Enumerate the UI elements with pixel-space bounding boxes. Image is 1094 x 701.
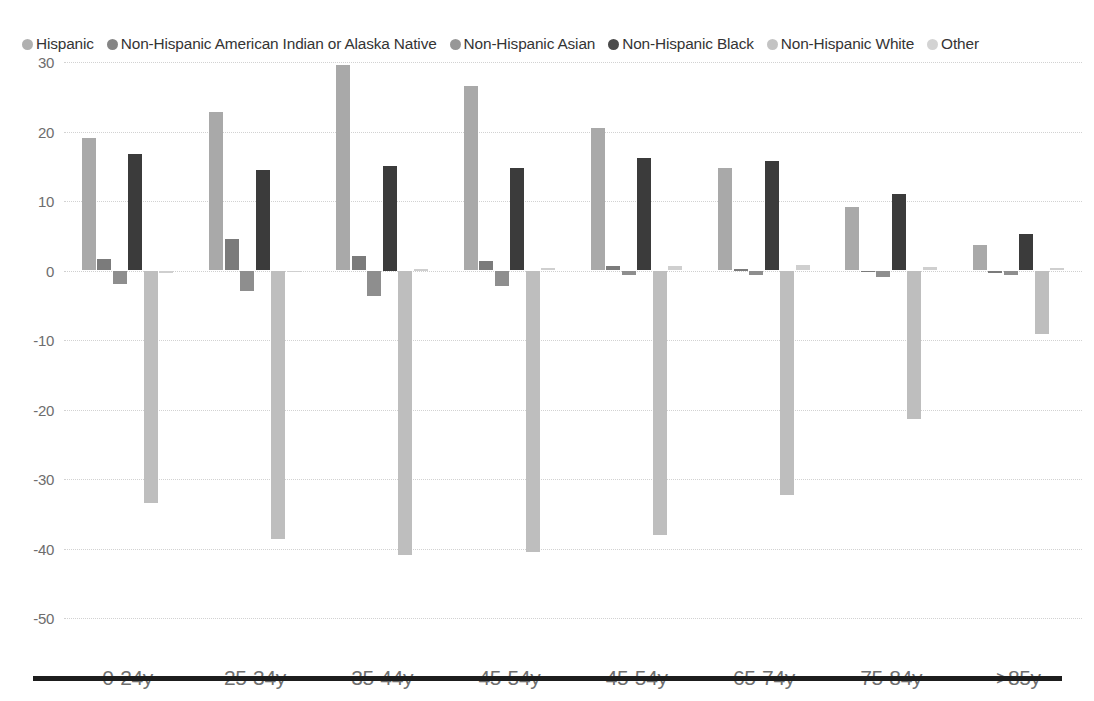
legend-dot-icon (927, 39, 938, 50)
bar-group->85y (0, 57, 1094, 657)
legend-label: Hispanic (36, 36, 94, 51)
bar[interactable] (988, 271, 1002, 273)
legend-label: Non-Hispanic Black (622, 36, 754, 51)
legend-item-2[interactable]: Non-Hispanic Asian (450, 36, 596, 51)
chart-legend: HispanicNon-Hispanic American Indian or … (22, 33, 1072, 55)
legend-label: Non-Hispanic White (781, 36, 914, 51)
bar[interactable] (1050, 268, 1064, 270)
x-axis-labels: 0-24y25-34y35-44y45-54y45-54y65-74y75-84… (0, 666, 1094, 701)
legend-dot-icon (107, 39, 118, 50)
plot-area: 3020100-10-20-30-40-50 0-24y25-34y35-44y… (0, 57, 1094, 657)
legend-item-1[interactable]: Non-Hispanic American Indian or Alaska N… (107, 36, 437, 51)
bottom-divider (33, 676, 1062, 681)
legend-dot-icon (767, 39, 778, 50)
legend-label: Other (941, 36, 979, 51)
legend-dot-icon (450, 39, 461, 50)
legend-dot-icon (22, 39, 33, 50)
bar[interactable] (1019, 234, 1033, 270)
legend-item-5[interactable]: Other (927, 36, 979, 51)
bars-layer (0, 57, 1094, 657)
legend-label: Non-Hispanic Asian (464, 36, 596, 51)
legend-item-3[interactable]: Non-Hispanic Black (608, 36, 754, 51)
legend-item-0[interactable]: Hispanic (22, 36, 94, 51)
chart-page: HispanicNon-Hispanic American Indian or … (0, 0, 1094, 701)
bar[interactable] (973, 245, 987, 270)
legend-dot-icon (608, 39, 619, 50)
legend-label: Non-Hispanic American Indian or Alaska N… (121, 36, 437, 51)
bar[interactable] (1035, 271, 1049, 335)
bar[interactable] (1004, 271, 1018, 276)
legend-item-4[interactable]: Non-Hispanic White (767, 36, 914, 51)
